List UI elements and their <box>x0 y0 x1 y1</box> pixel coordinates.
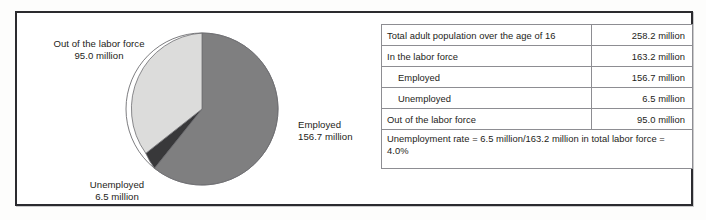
table-row: Total adult population over the age of 1… <box>382 25 693 46</box>
screenshot-root: Out of the labor force 95.0 million Empl… <box>0 0 706 220</box>
table-row-note: Unemployment rate = 6.5 million/163.2 mi… <box>382 130 693 169</box>
pie-label-employed-value: 156.7 million <box>298 131 378 143</box>
pie-label-out-of-labor-force-value: 95.0 million <box>35 50 163 62</box>
table-cell-label: Unemployed <box>382 88 592 109</box>
table-cell-label: Employed <box>382 67 592 88</box>
table-cell-label: Out of the labor force <box>382 109 592 130</box>
pie-label-employed: Employed 156.7 million <box>298 119 378 144</box>
pie-label-unemployed-value: 6.5 million <box>66 191 168 203</box>
table-cell-value: 6.5 million <box>592 88 693 109</box>
table-cell-value: 258.2 million <box>592 25 693 46</box>
pie-label-employed-name: Employed <box>298 119 378 131</box>
table-cell-value: 95.0 million <box>592 109 693 130</box>
pie-label-unemployed: Unemployed 6.5 million <box>66 179 168 204</box>
table-footnote: Unemployment rate = 6.5 million/163.2 mi… <box>382 130 693 169</box>
figure-frame: Out of the labor force 95.0 million Empl… <box>15 11 693 206</box>
data-table-container: Total adult population over the age of 1… <box>381 24 678 169</box>
table-cell-value: 163.2 million <box>592 46 693 67</box>
table-cell-value: 156.7 million <box>592 67 693 88</box>
table-cell-label: Total adult population over the age of 1… <box>382 25 592 46</box>
table-row: In the labor force 163.2 million <box>382 46 693 67</box>
labor-force-table: Total adult population over the age of 1… <box>381 24 693 169</box>
table-cell-label: In the labor force <box>382 46 592 67</box>
pie-label-unemployed-name: Unemployed <box>66 179 168 191</box>
pie-label-out-of-labor-force-name: Out of the labor force <box>35 38 163 50</box>
pie-label-out-of-labor-force: Out of the labor force 95.0 million <box>35 38 163 63</box>
table-row: Out of the labor force 95.0 million <box>382 109 693 130</box>
pie-chart-panel: Out of the labor force 95.0 million Empl… <box>17 13 373 204</box>
table-row: Unemployed 6.5 million <box>382 88 693 109</box>
table-row: Employed 156.7 million <box>382 67 693 88</box>
